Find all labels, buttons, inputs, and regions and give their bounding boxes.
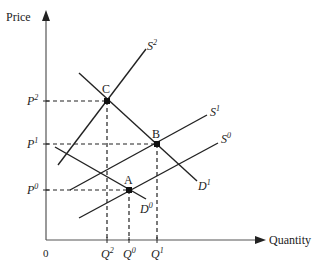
y-axis-arrow-icon: [42, 10, 50, 21]
quantity-label-q0: Q0: [123, 246, 136, 261]
quantity-label-q2: Q2: [101, 246, 114, 261]
price-label-p1: P1: [26, 136, 38, 151]
label-s0: S0: [221, 131, 231, 146]
supply-curve-s1: [70, 115, 207, 190]
supply-curve-s2: [58, 49, 146, 165]
price-label-p0: P0: [26, 182, 38, 197]
price-label-p2: P2: [26, 93, 38, 108]
label-s2: S2: [147, 38, 157, 53]
x-axis-arrow-icon: [255, 236, 266, 244]
quantity-label-q1: Q1: [151, 246, 164, 261]
label-s1: S1: [210, 104, 220, 119]
label-d1: D1: [197, 178, 211, 193]
supply-demand-diagram: Price Quantity 0 C B A S2 S1 S0 D1 D0 P2: [0, 0, 314, 270]
x-axis-label: Quantity: [269, 233, 311, 247]
point-c-label: C: [102, 82, 110, 96]
label-d0: D0: [139, 201, 153, 216]
demand-curve-d1: [79, 73, 197, 181]
guide-lines: [46, 101, 157, 240]
point-c-marker: [104, 98, 110, 104]
point-b-marker: [154, 141, 160, 147]
origin-label: 0: [43, 247, 49, 259]
point-a-marker: [126, 187, 132, 193]
point-a-label: A: [124, 173, 133, 187]
point-b-label: B: [152, 127, 160, 141]
y-axis-label: Price: [6, 10, 31, 24]
